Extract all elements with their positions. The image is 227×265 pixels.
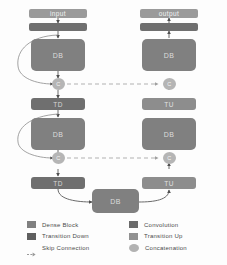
output-bar: output — [140, 9, 198, 18]
legend-label-concatenation: Concatenation — [145, 245, 187, 251]
up-dense-block-2: DB — [142, 39, 196, 71]
up-concatenation-2: C — [163, 78, 176, 90]
skip-connection-swatch — [27, 244, 36, 251]
legend-item-dense-block: Dense Block — [27, 219, 89, 231]
down-concatenation-1: C — [52, 78, 65, 90]
diagram-canvas: input DB C TD DB C TD DB output DB C TU … — [0, 0, 227, 265]
legend-item-skip-connection: Skip Connection — [27, 242, 89, 254]
convolution-swatch — [129, 221, 138, 228]
up-conv-block — [140, 23, 198, 31]
legend-column-right: Convolution Transition Up Concatenation — [129, 219, 187, 254]
down-transition-down-1: TD — [31, 98, 85, 110]
up-dense-block-1: DB — [142, 118, 196, 150]
legend: Dense Block Transition Down Skip Connect… — [0, 219, 227, 265]
legend-column-left: Dense Block Transition Down Skip Connect… — [27, 219, 89, 254]
bottleneck-dense-block: DB — [92, 189, 139, 213]
legend-label-transition-up: Transition Up — [144, 233, 183, 239]
legend-item-convolution: Convolution — [129, 219, 187, 231]
legend-item-concatenation: Concatenation — [129, 242, 187, 254]
up-transition-up-2: TU — [142, 98, 196, 110]
input-bar: input — [29, 9, 87, 18]
legend-label-dense-block: Dense Block — [42, 222, 78, 228]
transition-up-swatch — [129, 233, 138, 240]
legend-item-transition-up: Transition Up — [129, 231, 187, 243]
up-concatenation-1: C — [163, 152, 176, 164]
transition-down-swatch — [27, 233, 36, 240]
legend-label-skip-connection: Skip Connection — [42, 245, 89, 251]
down-dense-block-2: DB — [31, 118, 85, 150]
concatenation-swatch — [129, 244, 139, 252]
legend-label-convolution: Convolution — [144, 222, 178, 228]
down-transition-down-2: TD — [31, 177, 85, 189]
down-dense-block-1: DB — [31, 39, 85, 71]
dense-block-swatch — [27, 221, 36, 228]
legend-item-transition-down: Transition Down — [27, 231, 89, 243]
down-conv-block — [29, 23, 87, 31]
legend-label-transition-down: Transition Down — [42, 233, 89, 239]
up-transition-up-1: TU — [142, 177, 196, 189]
down-concatenation-2: C — [52, 152, 65, 164]
